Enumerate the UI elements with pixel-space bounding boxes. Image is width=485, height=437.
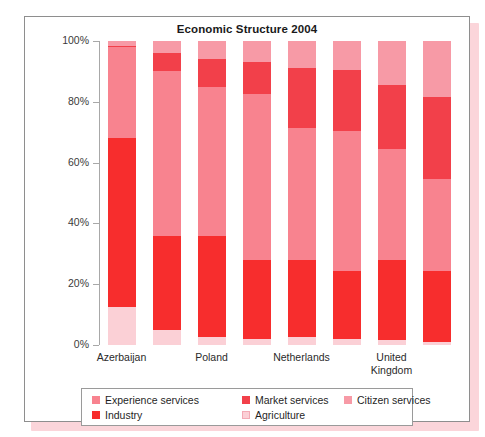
y-tick-label: 0%: [43, 338, 89, 350]
bar-segment[interactable]: [243, 260, 271, 339]
bar-segment[interactable]: [288, 337, 316, 345]
y-tick-label: 40%: [43, 216, 89, 228]
stacked-bar[interactable]: [288, 41, 316, 345]
bar-segment[interactable]: [423, 342, 451, 345]
plot-area: 0%20%40%60%80%100% AzerbaijanPolandNethe…: [25, 17, 471, 423]
bar-segment[interactable]: [288, 260, 316, 338]
bar-segment[interactable]: [378, 149, 406, 260]
y-tick-mark: [93, 345, 99, 346]
bar-segment[interactable]: [108, 307, 136, 345]
legend-label: Citizen services: [357, 394, 431, 406]
stacked-bar[interactable]: [333, 41, 361, 345]
y-tick-label: 20%: [43, 277, 89, 289]
legend-swatch-icon: [92, 411, 100, 419]
legend-label: Industry: [105, 409, 142, 421]
stacked-bar[interactable]: [153, 41, 181, 345]
bar-segment[interactable]: [153, 41, 181, 53]
bar-segment[interactable]: [153, 53, 181, 71]
legend-swatch-icon: [344, 396, 352, 404]
bar-segment[interactable]: [423, 271, 451, 342]
legend-item[interactable]: Experience services: [92, 394, 199, 406]
y-tick-label: 100%: [43, 34, 89, 46]
bar-segment[interactable]: [288, 41, 316, 68]
bar-segment[interactable]: [243, 41, 271, 62]
bar-segment[interactable]: [423, 179, 451, 270]
y-tick-label: 60%: [43, 156, 89, 168]
bar-segment[interactable]: [108, 138, 136, 307]
bar-segment[interactable]: [378, 340, 406, 345]
bar-segment[interactable]: [108, 46, 136, 48]
legend-item[interactable]: Market services: [242, 394, 329, 406]
bar-segment[interactable]: [423, 97, 451, 179]
bar-segment[interactable]: [153, 236, 181, 330]
legend-label: Market services: [255, 394, 329, 406]
stacked-bar[interactable]: [198, 41, 226, 345]
legend-label: Experience services: [105, 394, 199, 406]
x-tick-label: Netherlands: [259, 351, 345, 364]
stacked-bar[interactable]: [378, 41, 406, 345]
y-tick-label: 80%: [43, 95, 89, 107]
bar-segment[interactable]: [198, 87, 226, 236]
bar-segment[interactable]: [288, 68, 316, 127]
bar-segment[interactable]: [333, 271, 361, 339]
legend-swatch-icon: [242, 411, 250, 419]
stacked-bar[interactable]: [423, 41, 451, 345]
x-tick-label: Poland: [169, 351, 255, 364]
bar-segment[interactable]: [198, 337, 226, 345]
legend-item[interactable]: Industry: [92, 409, 142, 421]
bar-segment[interactable]: [333, 131, 361, 271]
bar-segment[interactable]: [378, 41, 406, 85]
bar-segment[interactable]: [153, 330, 181, 345]
stacked-bar[interactable]: [108, 41, 136, 345]
legend-swatch-icon: [92, 396, 100, 404]
bar-segment[interactable]: [198, 59, 226, 86]
bar-segment[interactable]: [153, 71, 181, 235]
legend-label: Agriculture: [255, 409, 305, 421]
bar-segment[interactable]: [333, 41, 361, 70]
chart-panel: Economic Structure 2004 0%20%40%60%80%10…: [24, 16, 470, 422]
bar-segment[interactable]: [198, 41, 226, 59]
bar-segment[interactable]: [333, 70, 361, 131]
bar-segment[interactable]: [333, 339, 361, 345]
legend-swatch-icon: [242, 396, 250, 404]
bar-segment[interactable]: [243, 339, 271, 345]
bar-segment[interactable]: [108, 47, 136, 138]
legend-item[interactable]: Citizen services: [344, 394, 431, 406]
x-tick-label: UnitedKingdom: [349, 351, 435, 376]
bar-segment[interactable]: [198, 236, 226, 338]
bar-segment[interactable]: [378, 85, 406, 149]
bar-segment[interactable]: [288, 128, 316, 260]
bar-segment[interactable]: [243, 94, 271, 260]
bar-segment[interactable]: [243, 62, 271, 94]
stacked-bars-group: [99, 41, 459, 345]
x-tick-label: Azerbaijan: [79, 351, 165, 364]
bar-segment[interactable]: [423, 41, 451, 97]
chart-screenshot: Economic Structure 2004 0%20%40%60%80%10…: [0, 0, 485, 437]
stacked-bar[interactable]: [243, 41, 271, 345]
bar-segment[interactable]: [378, 260, 406, 341]
legend-item[interactable]: Agriculture: [242, 409, 305, 421]
chart-legend: Experience servicesMarket servicesCitize…: [81, 388, 413, 426]
bar-segment[interactable]: [108, 41, 136, 46]
